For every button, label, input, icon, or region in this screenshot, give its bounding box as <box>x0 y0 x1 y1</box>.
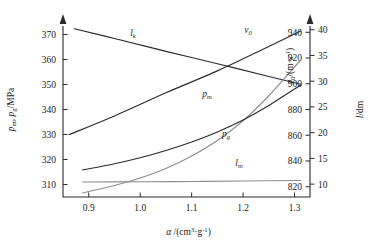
x-tick-label: 1.2 <box>237 203 249 213</box>
right-inner-tick-label: 860 <box>288 131 303 141</box>
left-tick-label: 320 <box>42 155 57 165</box>
series-line-l-m <box>83 181 301 183</box>
right-axis-arrow-icon <box>307 14 314 24</box>
curve-label-p-g: pg <box>221 129 231 140</box>
right-outer-tick-label: 15 <box>318 154 328 164</box>
left-tick-label: 310 <box>42 180 57 190</box>
right-outer-tick-label: 20 <box>318 128 328 138</box>
left-axis-title: pm, pg/MPa <box>6 87 17 132</box>
right-outer-tick-label: 40 <box>318 25 328 35</box>
curve-label-p-m: pm <box>201 89 212 100</box>
series-line-p-g <box>83 85 301 170</box>
right-outer-axis-title: l/dm <box>355 100 365 118</box>
left-tick-label: 330 <box>42 130 57 140</box>
left-tick-label: 350 <box>42 80 57 90</box>
right-outer-tick-label: 30 <box>318 77 328 87</box>
right-inner-tick-label: 820 <box>288 182 303 192</box>
right-inner-tick-label: 840 <box>288 156 303 166</box>
curve-label-v-0: v0 <box>244 25 252 36</box>
right-outer-tick-label: 35 <box>318 51 328 61</box>
left-axis-arrow-icon <box>60 14 67 24</box>
plot-frame <box>63 26 310 197</box>
x-tick-label: 1.1 <box>186 203 198 213</box>
right-outer-tick-label: 25 <box>318 102 328 112</box>
right-inner-tick-label: 880 <box>288 105 303 115</box>
chart-figure: 0.91.01.11.21.33103203303403503603708208… <box>0 0 379 247</box>
curve-label-l-m: lm <box>235 158 243 169</box>
x-axis-title: α /(cm3·g-1) <box>166 226 211 238</box>
curve-label-l-k: lk <box>130 28 137 39</box>
x-tick-label: 1.3 <box>289 203 301 213</box>
x-tick-label: 0.9 <box>83 203 95 213</box>
chart-canvas: 0.91.01.11.21.33103203303403503603708208… <box>0 0 379 247</box>
left-tick-label: 360 <box>42 55 57 65</box>
left-tick-label: 340 <box>42 105 57 115</box>
series-line-v-0 <box>69 31 301 135</box>
x-tick-label: 1.0 <box>134 203 146 213</box>
series-line-l-k <box>74 29 300 85</box>
left-tick-label: 370 <box>42 30 57 40</box>
series-line-p-m <box>83 60 301 193</box>
right-outer-tick-label: 10 <box>318 180 328 190</box>
